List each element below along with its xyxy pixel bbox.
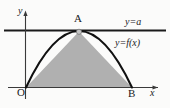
geometry-figure: y x O A B y=a y=f(x) xyxy=(0,0,170,108)
y-axis-arrow-icon xyxy=(23,11,27,17)
origin-label: O xyxy=(17,87,25,98)
x-axis-label: x xyxy=(150,88,154,98)
curve-equation-label: y=f(x) xyxy=(115,38,140,48)
line-equation-label: y=a xyxy=(125,17,141,27)
point-a-label: A xyxy=(74,13,82,24)
figure-canvas xyxy=(0,0,170,108)
apex-vertex-marker xyxy=(76,29,81,34)
point-b-label: B xyxy=(128,88,135,99)
y-axis-label: y xyxy=(18,6,22,16)
